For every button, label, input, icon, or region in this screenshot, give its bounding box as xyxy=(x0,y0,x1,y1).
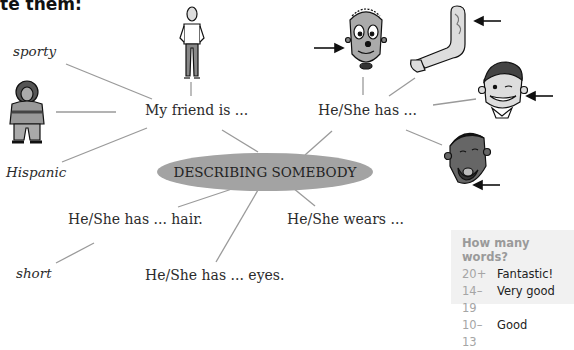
node-he-she-has-eyes: He/She has ... eyes. xyxy=(145,267,284,283)
score-row: 10–13 Good xyxy=(462,317,574,350)
node-my-friend-is: My friend is ... xyxy=(145,102,248,118)
score-rating: Good xyxy=(497,317,527,350)
score-row: 14–19 Very good xyxy=(462,283,574,317)
score-rating: Very good xyxy=(497,283,555,317)
score-rating: Fantastic! xyxy=(497,266,553,283)
face-earrings-illustration xyxy=(344,4,388,74)
short-woman-illustration xyxy=(4,78,50,146)
label-hispanic: Hispanic xyxy=(6,164,66,180)
tall-man-illustration xyxy=(178,4,206,82)
node-he-she-wears: He/She wears ... xyxy=(287,211,404,227)
center-node-label: DESCRIBING SOMEBODY xyxy=(174,164,357,180)
label-short: short xyxy=(16,265,52,281)
score-range: 14–19 xyxy=(462,283,497,317)
node-he-she-has: He/She has ... xyxy=(318,102,417,118)
score-row: 20+ Fantastic! xyxy=(462,266,574,283)
score-range: 10–13 xyxy=(462,317,497,350)
smiling-boy-illustration xyxy=(478,58,528,120)
score-range: 20+ xyxy=(462,266,497,283)
score-box-heading: How many words? xyxy=(462,236,574,264)
word-score-box: How many words? 20+ Fantastic! 14–19 Ver… xyxy=(451,230,574,304)
node-he-she-has-hair: He/She has ... hair. xyxy=(68,211,203,227)
center-node-describing-somebody: DESCRIBING SOMEBODY xyxy=(157,153,373,191)
tattooed-arm-illustration xyxy=(407,4,471,76)
label-sporty: sporty xyxy=(13,43,56,59)
bearded-man-illustration xyxy=(444,126,492,188)
